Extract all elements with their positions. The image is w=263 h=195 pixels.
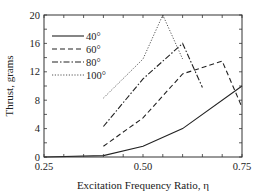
series-line-40deg [44,86,242,157]
y-tick-label: 20 [30,10,41,21]
legend-label: 80° [86,57,101,68]
y-tick-label: 12 [30,66,41,77]
legend-label: 40° [86,31,101,42]
y-tick-label: 0 [35,152,40,163]
y-tick-label: 8 [35,95,40,106]
legend: 40°60°80°100° [52,31,106,81]
y-tick-label: 4 [35,123,41,134]
series-line-80deg [103,43,202,126]
y-tick-label: 16 [30,38,41,49]
legend-label: 60° [86,44,101,55]
line-chart: 0.250.500.75048121620 40°60°80°100° Exci… [0,0,263,195]
series-line-100deg [103,15,182,98]
axes: 0.250.500.75048121620 [30,10,252,173]
x-tick-label: 0.75 [233,161,251,172]
legend-label: 100° [86,70,106,81]
x-tick-label: 0.50 [134,161,152,172]
x-axis-label: Excitation Frequency Ratio, η [77,179,209,191]
x-tick-label: 0.25 [35,161,53,172]
y-axis-label: Thrust, grams [3,55,15,116]
